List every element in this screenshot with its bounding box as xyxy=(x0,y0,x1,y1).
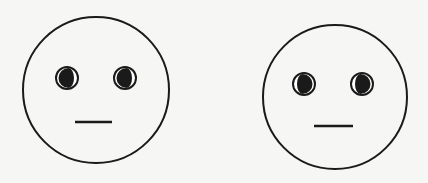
right-eye xyxy=(114,67,136,89)
right-eye xyxy=(351,73,373,95)
left-eye xyxy=(56,67,78,89)
head-outline xyxy=(263,25,407,169)
two-faces-illustration xyxy=(0,0,428,183)
right-face xyxy=(263,25,407,169)
head-outline xyxy=(23,17,169,163)
left-eye xyxy=(293,73,315,95)
figure-stage xyxy=(0,0,428,183)
left-face xyxy=(23,17,169,163)
